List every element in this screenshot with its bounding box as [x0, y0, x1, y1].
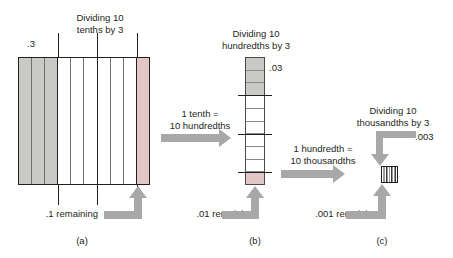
transition-b-to-c-label: 1 hundredth = 10 thousandths	[277, 143, 369, 166]
decimal-division-figure: Dividing 10 tenths by 3 .3 .1 remaining …	[0, 0, 453, 258]
tenths-cell	[19, 58, 32, 184]
panel-a-group-tick-2	[97, 33, 98, 57]
panel-b-quotient-label: .03	[269, 62, 282, 74]
hundredths-cell	[246, 71, 264, 84]
tenths-cell	[71, 58, 84, 184]
panel-b-group-tick-2	[238, 134, 272, 135]
panel-b-caption: (b)	[215, 235, 295, 247]
panel-a-remainder-label: .1 remaining	[20, 208, 98, 220]
tenths-remainder-cell	[137, 58, 149, 184]
hundredths-cell	[246, 147, 264, 160]
panel-c-quotient-label: .003	[415, 131, 434, 143]
panel-b-group-tick-3	[238, 172, 272, 173]
thousandths-grid	[381, 166, 398, 183]
tenths-cell	[32, 58, 45, 184]
hundredths-grid	[245, 57, 265, 185]
panel-a-group-tick-lower-2	[97, 185, 98, 205]
panel-c-title: Dividing 10 thousandths by 3	[338, 105, 448, 128]
hundredths-remainder-cell	[246, 172, 264, 184]
tenths-cell	[58, 58, 71, 184]
hundredths-cell	[246, 58, 264, 71]
tenths-cell	[124, 58, 137, 184]
tenths-cell	[111, 58, 124, 184]
panel-c-caption: (c)	[342, 235, 422, 247]
hundredths-cell	[246, 96, 264, 109]
panel-a-title: Dividing 10 tenths by 3	[48, 12, 152, 35]
panel-b-title: Dividing 10 hundredths by 3	[204, 28, 308, 51]
panel-a-group-tick-1	[58, 33, 59, 57]
tenths-cell	[84, 58, 97, 184]
hundredths-cell	[246, 134, 264, 147]
hundredths-cell	[246, 83, 264, 96]
tenths-grid	[18, 57, 150, 185]
thousandths-cell	[396, 167, 397, 182]
tenths-cell	[45, 58, 58, 184]
panel-a-quotient-label: .3	[27, 38, 35, 50]
hundredths-cell	[246, 160, 264, 173]
hundredths-cell	[246, 122, 264, 135]
panel-a-group-tick-3	[137, 33, 138, 57]
transition-a-to-b-label: 1 tenth = 10 hundredths	[160, 108, 240, 131]
hundredths-cell	[246, 109, 264, 122]
panel-a-group-tick-lower-1	[58, 185, 59, 205]
panel-a-caption: (a)	[42, 235, 122, 247]
tenths-cell	[98, 58, 111, 184]
panel-b-group-tick-1	[238, 95, 272, 96]
